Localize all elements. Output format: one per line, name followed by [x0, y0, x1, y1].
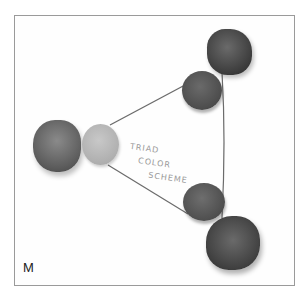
left-clay-lump [33, 120, 81, 172]
bottom-right-clay-disk [183, 183, 225, 221]
handwritten-label: TRIAD COLOR SCHEME [126, 140, 193, 187]
top-right-clay-lump [207, 29, 252, 75]
bottom-right-clay-lump [206, 216, 260, 270]
corner-mark: M [23, 260, 34, 275]
top-right-clay-disk [182, 71, 222, 110]
left-clay-disk [82, 124, 119, 165]
